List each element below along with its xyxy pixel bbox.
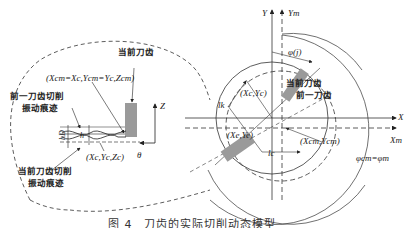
diagram-canvas [0,0,411,228]
current-tooth-label: 当前刀齿 [118,47,154,57]
tooth-coords-label: (Xe,Ye) [227,130,253,140]
current-trace-label-2: 振动痕迹 [28,178,64,188]
x-axis-label: X [398,112,404,122]
phi-relation-label: φcm=φm [356,153,389,163]
current-tooth-right-label: 当前刀齿 [286,78,322,88]
current-trace-label-1: 当前刀齿切削 [18,166,72,176]
theta-label: θ [137,150,141,160]
center-cm-label: (Xcm,Ycm) [300,136,340,146]
phi-j-label: φ(j) [288,47,301,57]
center-c-label: (Xc,Yc) [240,88,267,98]
previous-trace-label-1: 前一刀齿切削 [10,91,64,101]
lc-label: lc [268,148,275,158]
ym-axis-label: Ym [288,8,300,18]
h-d-label: hD [58,130,68,140]
right-view [185,10,396,225]
previous-tooth-right-label: 前一刀齿 [296,90,332,100]
figure-caption: 图 4 刀齿的实际切削动态模型 [108,215,277,228]
previous-trace-label-2: 振动痕迹 [22,103,58,113]
tip-coords-label: (Xc,Yc,Zc) [86,152,124,162]
h-label: h [80,131,84,141]
current-tooth-block [125,103,137,137]
z-axis-label: Z [160,101,165,111]
center-coords-label: (Xcm=Xc,Ycm=Yc,Zcm) [46,73,134,83]
y-axis-label: Y [262,8,267,18]
lk-label: lk [218,100,225,110]
xm-axis-label: Xm [390,135,402,145]
